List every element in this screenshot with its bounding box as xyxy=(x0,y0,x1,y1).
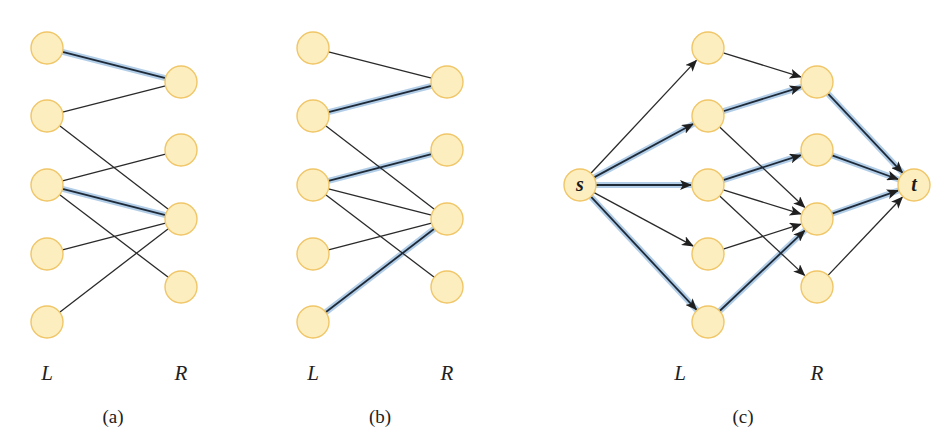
panel-b-caption: (b) xyxy=(369,406,391,428)
edge xyxy=(62,154,165,181)
panel-c-right-node-1 xyxy=(801,134,833,166)
matched-edge xyxy=(329,86,432,112)
flow-edge xyxy=(594,124,693,177)
panel-c-right-node-2 xyxy=(801,203,833,235)
matched-edge xyxy=(63,52,166,78)
source-node: s xyxy=(564,169,596,201)
panel-a-left-label: L xyxy=(41,361,53,386)
panel-c-left-node-1 xyxy=(692,100,724,132)
matched-edge xyxy=(326,229,435,312)
panel-b-left-node-0 xyxy=(297,32,329,64)
edge xyxy=(329,189,432,215)
panel-a-right-node-3 xyxy=(165,271,197,303)
flow-edge xyxy=(832,191,898,214)
edge xyxy=(60,229,169,312)
directed-edge xyxy=(720,196,805,275)
panel-a-left-node-1 xyxy=(31,100,63,132)
source-node-label: s xyxy=(575,173,584,195)
panel-c-left-label: L xyxy=(674,361,686,386)
bipartite-matching-diagram: st xyxy=(0,0,949,446)
panel-a-caption: (a) xyxy=(102,406,123,428)
panel-c-left-node-4 xyxy=(692,306,724,338)
panel-b-right-node-2 xyxy=(431,203,463,235)
panel-b-right-label: R xyxy=(441,361,454,386)
panel-c-caption: (c) xyxy=(732,406,753,428)
panel-c-right-node-0 xyxy=(801,66,833,98)
flow-edge xyxy=(723,155,801,180)
panel-c-left-node-2 xyxy=(692,169,724,201)
directed-edge xyxy=(723,53,800,77)
panel-c-right-node-3 xyxy=(801,271,833,303)
panel-b-left-node-4 xyxy=(297,306,329,338)
panel-b-left-node-3 xyxy=(297,238,329,270)
flow-edge xyxy=(723,87,800,111)
panel-a-right-node-2 xyxy=(165,203,197,235)
panel-a-right-node-0 xyxy=(165,66,197,98)
panel-b-right-node-0 xyxy=(431,66,463,98)
edge xyxy=(62,223,165,250)
panel-a-left-node-3 xyxy=(31,238,63,270)
edge xyxy=(329,52,432,78)
panel-a-right-node-1 xyxy=(165,134,197,166)
matched-edge xyxy=(63,189,166,215)
flow-edge xyxy=(591,197,696,310)
panel-b-right-node-1 xyxy=(431,134,463,166)
matched-edge xyxy=(328,154,431,181)
panel-b-left-node-1 xyxy=(297,100,329,132)
edge xyxy=(63,86,166,112)
sink-node: t xyxy=(898,169,930,201)
panel-a-left-node-0 xyxy=(31,32,63,64)
flow-edge xyxy=(720,231,805,311)
panel-b-left-label: L xyxy=(307,361,319,386)
panel-a-right-label: R xyxy=(175,361,188,386)
panel-c-left-node-0 xyxy=(692,32,724,64)
panel-a-left-node-4 xyxy=(31,306,63,338)
panel-c-left-node-3 xyxy=(692,238,724,270)
panel-a-left-node-2 xyxy=(31,169,63,201)
directed-edge xyxy=(591,60,696,173)
panel-c-right-label: R xyxy=(811,361,824,386)
panel-b-left-node-2 xyxy=(297,169,329,201)
panel-b-right-node-3 xyxy=(431,271,463,303)
